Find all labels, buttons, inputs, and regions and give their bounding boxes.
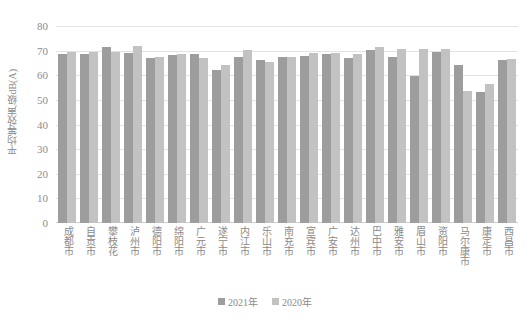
bar[interactable] bbox=[366, 50, 375, 223]
bar[interactable] bbox=[419, 49, 428, 223]
y-axis-tick-label: 60 bbox=[37, 70, 48, 81]
bar[interactable] bbox=[432, 52, 441, 223]
y-axis-tick-label: 40 bbox=[37, 119, 48, 130]
bar[interactable] bbox=[287, 57, 296, 223]
bar[interactable] bbox=[353, 54, 362, 223]
bar[interactable] bbox=[344, 58, 353, 223]
x-axis-tick-label-text: 宣宾市 bbox=[304, 226, 315, 256]
bar[interactable] bbox=[80, 54, 89, 223]
legend-item[interactable]: 2021年 bbox=[218, 294, 258, 309]
bar[interactable] bbox=[58, 54, 67, 223]
x-axis-tick-label: 泸州市 bbox=[122, 226, 144, 288]
x-axis-tick-label-text: 雅安市 bbox=[392, 226, 403, 256]
bar-group bbox=[342, 26, 364, 223]
y-axis-tick-label: 80 bbox=[37, 21, 48, 32]
bar[interactable] bbox=[441, 49, 450, 223]
legend-item[interactable]: 2020年 bbox=[272, 294, 312, 309]
x-axis-tick-label: 雅安市 bbox=[386, 226, 408, 288]
legend-swatch-icon bbox=[218, 298, 225, 305]
bar[interactable] bbox=[221, 65, 230, 223]
bar[interactable] bbox=[133, 46, 142, 223]
bar[interactable] bbox=[507, 59, 516, 223]
x-axis-tick-label-text: 西昌市 bbox=[502, 226, 513, 256]
bar-series-container bbox=[56, 26, 518, 223]
bar[interactable] bbox=[256, 60, 265, 223]
x-axis-tick-label: 成都市 bbox=[56, 226, 78, 288]
bar[interactable] bbox=[89, 52, 98, 223]
legend-item-label: 2020年 bbox=[282, 294, 312, 309]
x-axis-tick-label: 绵阳市 bbox=[166, 226, 188, 288]
bar-chart: 平均等效声级dB(A) 01020304050607080 成都市自贡市攀枝花泸… bbox=[0, 0, 530, 324]
x-axis-tick-label-text: 达州市 bbox=[348, 226, 359, 256]
y-axis-tick-label: 70 bbox=[37, 45, 48, 56]
bar[interactable] bbox=[309, 53, 318, 223]
y-axis-tick-labels: 01020304050607080 bbox=[24, 26, 52, 223]
bar[interactable] bbox=[375, 47, 384, 223]
bar-group bbox=[452, 26, 474, 223]
x-axis-tick-label-text: 乐山市 bbox=[260, 226, 271, 256]
x-axis-tick-label: 巴中市 bbox=[364, 226, 386, 288]
bar-group bbox=[298, 26, 320, 223]
bar[interactable] bbox=[322, 54, 331, 223]
bar[interactable] bbox=[124, 53, 133, 223]
x-axis-tick-label: 攀枝花 bbox=[100, 226, 122, 288]
x-axis-tick-label-text: 广安市 bbox=[326, 226, 337, 256]
x-axis-tick-label: 康定市 bbox=[474, 226, 496, 288]
bar[interactable] bbox=[331, 53, 340, 223]
bar[interactable] bbox=[410, 76, 419, 223]
x-axis-tick-label-text: 泸州市 bbox=[128, 226, 139, 256]
bar[interactable] bbox=[476, 92, 485, 223]
x-axis-tick-label-text: 德阳市 bbox=[150, 226, 161, 256]
bar-group bbox=[408, 26, 430, 223]
bar[interactable] bbox=[168, 55, 177, 223]
x-axis-tick-label: 资阳市 bbox=[430, 226, 452, 288]
x-axis-tick-label: 自贡市 bbox=[78, 226, 100, 288]
bar-group bbox=[100, 26, 122, 223]
x-axis-tick-label: 内江市 bbox=[232, 226, 254, 288]
bar-group bbox=[320, 26, 342, 223]
legend-item-label: 2021年 bbox=[228, 294, 258, 309]
x-axis-tick-label: 马尔康市 bbox=[452, 226, 474, 288]
x-axis-tick-label-text: 眉山市 bbox=[414, 226, 425, 256]
bar[interactable] bbox=[190, 54, 199, 223]
bar[interactable] bbox=[212, 70, 221, 223]
bar[interactable] bbox=[199, 58, 208, 223]
x-axis-tick-label-text: 巴中市 bbox=[370, 226, 381, 256]
bar-group bbox=[188, 26, 210, 223]
bar[interactable] bbox=[146, 58, 155, 223]
bar-group bbox=[166, 26, 188, 223]
bar-group bbox=[144, 26, 166, 223]
bar[interactable] bbox=[485, 84, 494, 223]
bar[interactable] bbox=[300, 56, 309, 223]
x-axis-tick-label-text: 成都市 bbox=[62, 226, 73, 256]
bar[interactable] bbox=[388, 57, 397, 223]
x-axis-tick-label-text: 遂宁市 bbox=[216, 226, 227, 256]
bar-group bbox=[430, 26, 452, 223]
bar[interactable] bbox=[111, 52, 120, 223]
bar-group bbox=[386, 26, 408, 223]
bar[interactable] bbox=[278, 57, 287, 223]
x-axis-tick-label-text: 康定市 bbox=[480, 226, 491, 256]
x-axis-tick-label-text: 攀枝花 bbox=[106, 226, 117, 256]
bar[interactable] bbox=[397, 49, 406, 223]
bar[interactable] bbox=[463, 91, 472, 223]
bar[interactable] bbox=[265, 62, 274, 223]
x-axis-tick-label-text: 内江市 bbox=[238, 226, 249, 256]
bar[interactable] bbox=[243, 50, 252, 223]
x-axis-tick-label: 遂宁市 bbox=[210, 226, 232, 288]
bar[interactable] bbox=[177, 54, 186, 223]
bar-group bbox=[254, 26, 276, 223]
bar[interactable] bbox=[155, 57, 164, 223]
bar[interactable] bbox=[234, 57, 243, 223]
bar[interactable] bbox=[454, 65, 463, 223]
bar-group bbox=[496, 26, 518, 223]
plot-area bbox=[56, 26, 518, 223]
bar[interactable] bbox=[67, 52, 76, 223]
bar[interactable] bbox=[498, 60, 507, 223]
y-axis-title: 平均等效声级dB(A) bbox=[2, 0, 24, 224]
x-axis-tick-label-text: 广元市 bbox=[194, 226, 205, 256]
bar-group bbox=[474, 26, 496, 223]
x-axis-tick-labels: 成都市自贡市攀枝花泸州市德阳市绵阳市广元市遂宁市内江市乐山市南充市宣宾市广安市达… bbox=[56, 226, 518, 288]
bar-group bbox=[78, 26, 100, 223]
bar[interactable] bbox=[102, 47, 111, 223]
